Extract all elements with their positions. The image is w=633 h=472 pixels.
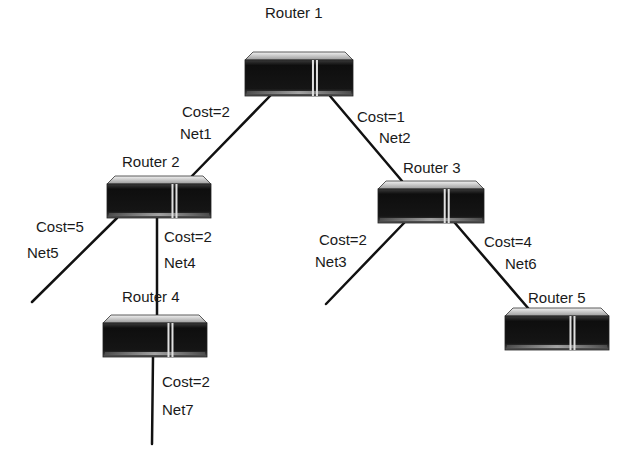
net-label-net5: Net5	[27, 245, 59, 260]
router-icon-r4	[103, 315, 207, 357]
router-icon-r1	[245, 52, 353, 96]
cost-label-net4: Cost=2	[164, 229, 212, 244]
cost-label-net2: Cost=1	[357, 109, 405, 124]
router-icon-r3	[378, 181, 484, 223]
net-label-net4: Net4	[164, 255, 196, 270]
net-label-net1: Net1	[180, 126, 212, 141]
router-label-r1: Router 1	[265, 5, 323, 20]
cost-label-net5: Cost=5	[36, 219, 84, 234]
router-label-r2: Router 2	[122, 154, 180, 169]
router-icon-r5	[505, 308, 609, 350]
net-label-net2: Net2	[379, 130, 411, 145]
cost-label-net1: Cost=2	[182, 104, 230, 119]
routers-group	[103, 52, 609, 357]
network-diagram: Cost=2Net1Cost=1Net2Cost=5Net5Cost=2Net4…	[0, 0, 633, 472]
router-label-r4: Router 4	[122, 289, 180, 304]
cost-label-net3: Cost=2	[319, 232, 367, 247]
router-icon-r2	[107, 176, 211, 218]
cost-label-net6: Cost=4	[484, 234, 532, 249]
links-layer	[0, 0, 633, 472]
cost-label-net7: Cost=2	[162, 374, 210, 389]
net-label-net7: Net7	[162, 402, 194, 417]
link-net7	[152, 357, 153, 444]
router-label-r5: Router 5	[528, 290, 586, 305]
net-label-net3: Net3	[315, 254, 347, 269]
links-group	[32, 96, 528, 444]
net-label-net6: Net6	[505, 256, 537, 271]
router-label-r3: Router 3	[403, 160, 461, 175]
